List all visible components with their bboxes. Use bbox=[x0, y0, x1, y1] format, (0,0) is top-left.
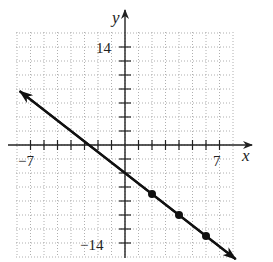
data-point bbox=[148, 190, 156, 198]
chart: y x −7 7 14 −14 bbox=[0, 0, 273, 262]
data-point bbox=[202, 232, 210, 240]
x-tick-label-max: 7 bbox=[213, 153, 221, 169]
x-axis-label: x bbox=[241, 146, 250, 165]
y-tick-label-min: −14 bbox=[80, 237, 104, 253]
y-tick-label-max: 14 bbox=[96, 40, 112, 56]
data-point bbox=[175, 211, 183, 219]
coordinate-plane: y x −7 7 14 −14 bbox=[0, 0, 273, 262]
x-tick-label-min: −7 bbox=[18, 153, 34, 169]
y-axis-label: y bbox=[110, 8, 120, 27]
